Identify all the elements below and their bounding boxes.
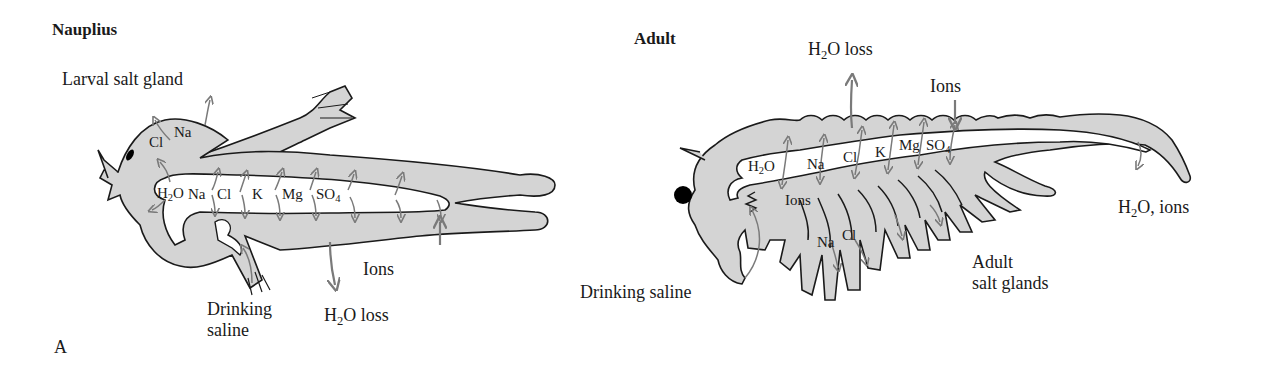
adult-gut-mg-label: Mg xyxy=(899,138,920,153)
adult-gut-h2o-label: H2O xyxy=(748,159,775,174)
adult-gut-so4-label: SO4 xyxy=(926,138,950,153)
adult-leg-cl-label: Cl xyxy=(842,228,856,243)
panel-label: A xyxy=(54,338,67,356)
adult-drinking-saline-label: Drinking saline xyxy=(580,283,691,301)
adult-gut-na-label: Na xyxy=(807,157,825,172)
adult-ions-top-label: Ions xyxy=(930,77,961,95)
nauplius-gut-cl-label: Cl xyxy=(217,187,231,202)
nauplius-gut-mg-label: Mg xyxy=(282,187,303,202)
nauplius-gut-k-label: K xyxy=(252,187,263,202)
nauplius-h2o-loss-label: H2O loss xyxy=(324,306,389,324)
adult-gut-cl-label: Cl xyxy=(843,150,857,165)
nauplius-gut-so4-label: SO4 xyxy=(316,187,340,202)
adult-leg-na-label: Na xyxy=(817,235,835,250)
nauplius-title: Nauplius xyxy=(52,21,117,38)
adult-title: Adult xyxy=(634,30,676,47)
nauplius-ions-label: Ions xyxy=(363,260,394,278)
adult-salt-glands-label: Adultsalt glands xyxy=(972,252,1049,293)
adult-h2o-ions-label: H2O, ions xyxy=(1118,198,1189,216)
gland-cl-label: Cl xyxy=(149,135,163,150)
nauplius-gut-h2o-label: H2O xyxy=(157,186,184,201)
nauplius-gut-na-label: Na xyxy=(188,187,206,202)
gland-na-label: Na xyxy=(174,125,192,140)
nauplius-drinking-saline-label: Drinkingsaline xyxy=(207,299,272,340)
adult-h2o-loss-label: H2O loss xyxy=(808,40,873,58)
adult-ions-inner-label: Ions xyxy=(785,193,811,208)
larval-salt-gland-label: Larval salt gland xyxy=(62,70,183,88)
adult-gut-k-label: K xyxy=(875,145,886,160)
